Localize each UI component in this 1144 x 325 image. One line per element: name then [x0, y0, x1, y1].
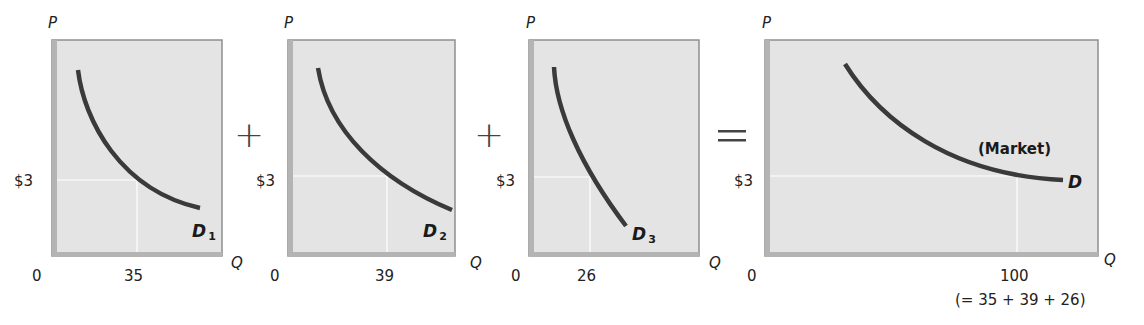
- price-tick: $3: [256, 172, 275, 190]
- y-axis: [765, 40, 770, 256]
- panel-d2: P $3 0 39 Q D2: [256, 14, 482, 285]
- price-tick: $3: [496, 172, 515, 190]
- market-label: (Market): [978, 140, 1051, 158]
- x-axis-label: Q: [1104, 251, 1116, 269]
- price-tick: $3: [14, 172, 33, 190]
- quantity-tick: 100: [1000, 267, 1029, 285]
- y-axis-label: P: [762, 14, 772, 32]
- quantity-tick: 35: [124, 267, 143, 285]
- x-axis-label: Q: [709, 254, 721, 272]
- price-tick: $3: [734, 172, 753, 190]
- origin-label: 0: [270, 267, 280, 285]
- quantity-tick: 39: [375, 267, 394, 285]
- plus-operator: +: [474, 114, 504, 155]
- panel-d1: P $3 0 35 Q D1: [14, 14, 243, 285]
- market-demand-figure: P $3 0 35 Q D1 + P $3 0 39 Q D2 + P $3 0…: [0, 0, 1144, 325]
- origin-label: 0: [747, 267, 757, 285]
- origin-label: 0: [511, 267, 521, 285]
- quantity-tick: 26: [577, 267, 596, 285]
- quantity-sum-note: (= 35 + 39 + 26): [955, 291, 1086, 309]
- x-axis: [52, 252, 222, 257]
- y-axis: [288, 40, 293, 256]
- y-axis: [529, 40, 534, 256]
- x-axis: [765, 252, 1098, 257]
- y-axis: [52, 40, 57, 256]
- y-axis-label: P: [284, 14, 294, 32]
- x-axis: [529, 252, 699, 257]
- curve-label: D: [1068, 172, 1082, 192]
- y-axis-label: P: [48, 14, 58, 32]
- x-axis-label: Q: [231, 254, 243, 272]
- y-axis-label: P: [526, 14, 536, 32]
- panel-market: P $3 0 100 (= 35 + 39 + 26) Q (Market) D: [734, 14, 1116, 309]
- plus-operator: +: [234, 114, 264, 155]
- equals-operator: [718, 130, 746, 142]
- x-axis-label: Q: [470, 254, 482, 272]
- x-axis: [288, 252, 455, 257]
- panel-d3: P $3 0 26 Q D3: [496, 14, 721, 285]
- origin-label: 0: [32, 267, 42, 285]
